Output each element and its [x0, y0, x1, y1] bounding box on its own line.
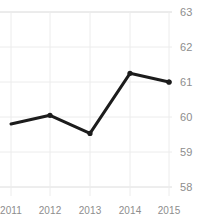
- y-axis-tick-label-62: 62: [180, 42, 202, 53]
- data-point-2013[interactable]: [127, 71, 132, 76]
- y-axis-tick-label-59: 59: [180, 147, 202, 158]
- data-point-2012[interactable]: [87, 131, 92, 136]
- data-point-2011[interactable]: [47, 113, 52, 118]
- x-axis-tick-label-2011: 2011: [0, 205, 28, 216]
- y-axis-tick-label-61: 61: [180, 77, 202, 88]
- x-axis-tick-label-2012: 2012: [33, 205, 67, 216]
- vertical-gridlines: [11, 12, 169, 196]
- y-axis-tick-label-60: 60: [180, 112, 202, 123]
- y-axis-tick-label-58: 58: [180, 182, 202, 193]
- y-axis-tick-label-63: 63: [180, 7, 202, 18]
- x-axis-tick-label-2015: 2015: [152, 205, 186, 216]
- plot-svg: [0, 0, 172, 196]
- data-point-2015[interactable]: [166, 79, 171, 84]
- x-axis-tick-label-2013: 2013: [73, 205, 107, 216]
- line-chart: Female Smokers: [0, 0, 203, 222]
- x-axis-tick-label-2014: 2014: [113, 205, 147, 216]
- horizontal-gridlines: [0, 12, 172, 187]
- plot-area: [0, 0, 172, 196]
